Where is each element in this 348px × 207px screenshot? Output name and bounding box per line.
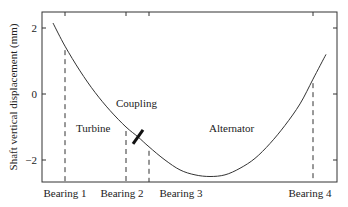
y-tick-label-2: 2 xyxy=(32,22,38,34)
shaft-deflection-curve xyxy=(53,23,326,176)
y-tick-label-0: 0 xyxy=(32,88,38,100)
displacement-chart: 2 0 −2 Shaft vertical displacement (mm) … xyxy=(0,0,348,207)
coupling-marker xyxy=(133,130,143,144)
alternator-label: Alternator xyxy=(209,122,255,134)
plot-frame xyxy=(42,12,337,182)
bearing-lines xyxy=(65,12,313,182)
bearing-3-label: Bearing 3 xyxy=(159,187,203,199)
coupling-label: Coupling xyxy=(116,97,157,109)
y-ticks xyxy=(42,28,337,160)
bearing-2-label: Bearing 2 xyxy=(100,187,143,199)
turbine-label: Turbine xyxy=(76,122,111,134)
y-tick-label-neg2: −2 xyxy=(25,154,37,166)
y-axis-label: Shaft vertical displacement (mm) xyxy=(7,23,20,170)
bearing-1-label: Bearing 1 xyxy=(43,187,86,199)
bearing-4-label: Bearing 4 xyxy=(288,187,332,199)
